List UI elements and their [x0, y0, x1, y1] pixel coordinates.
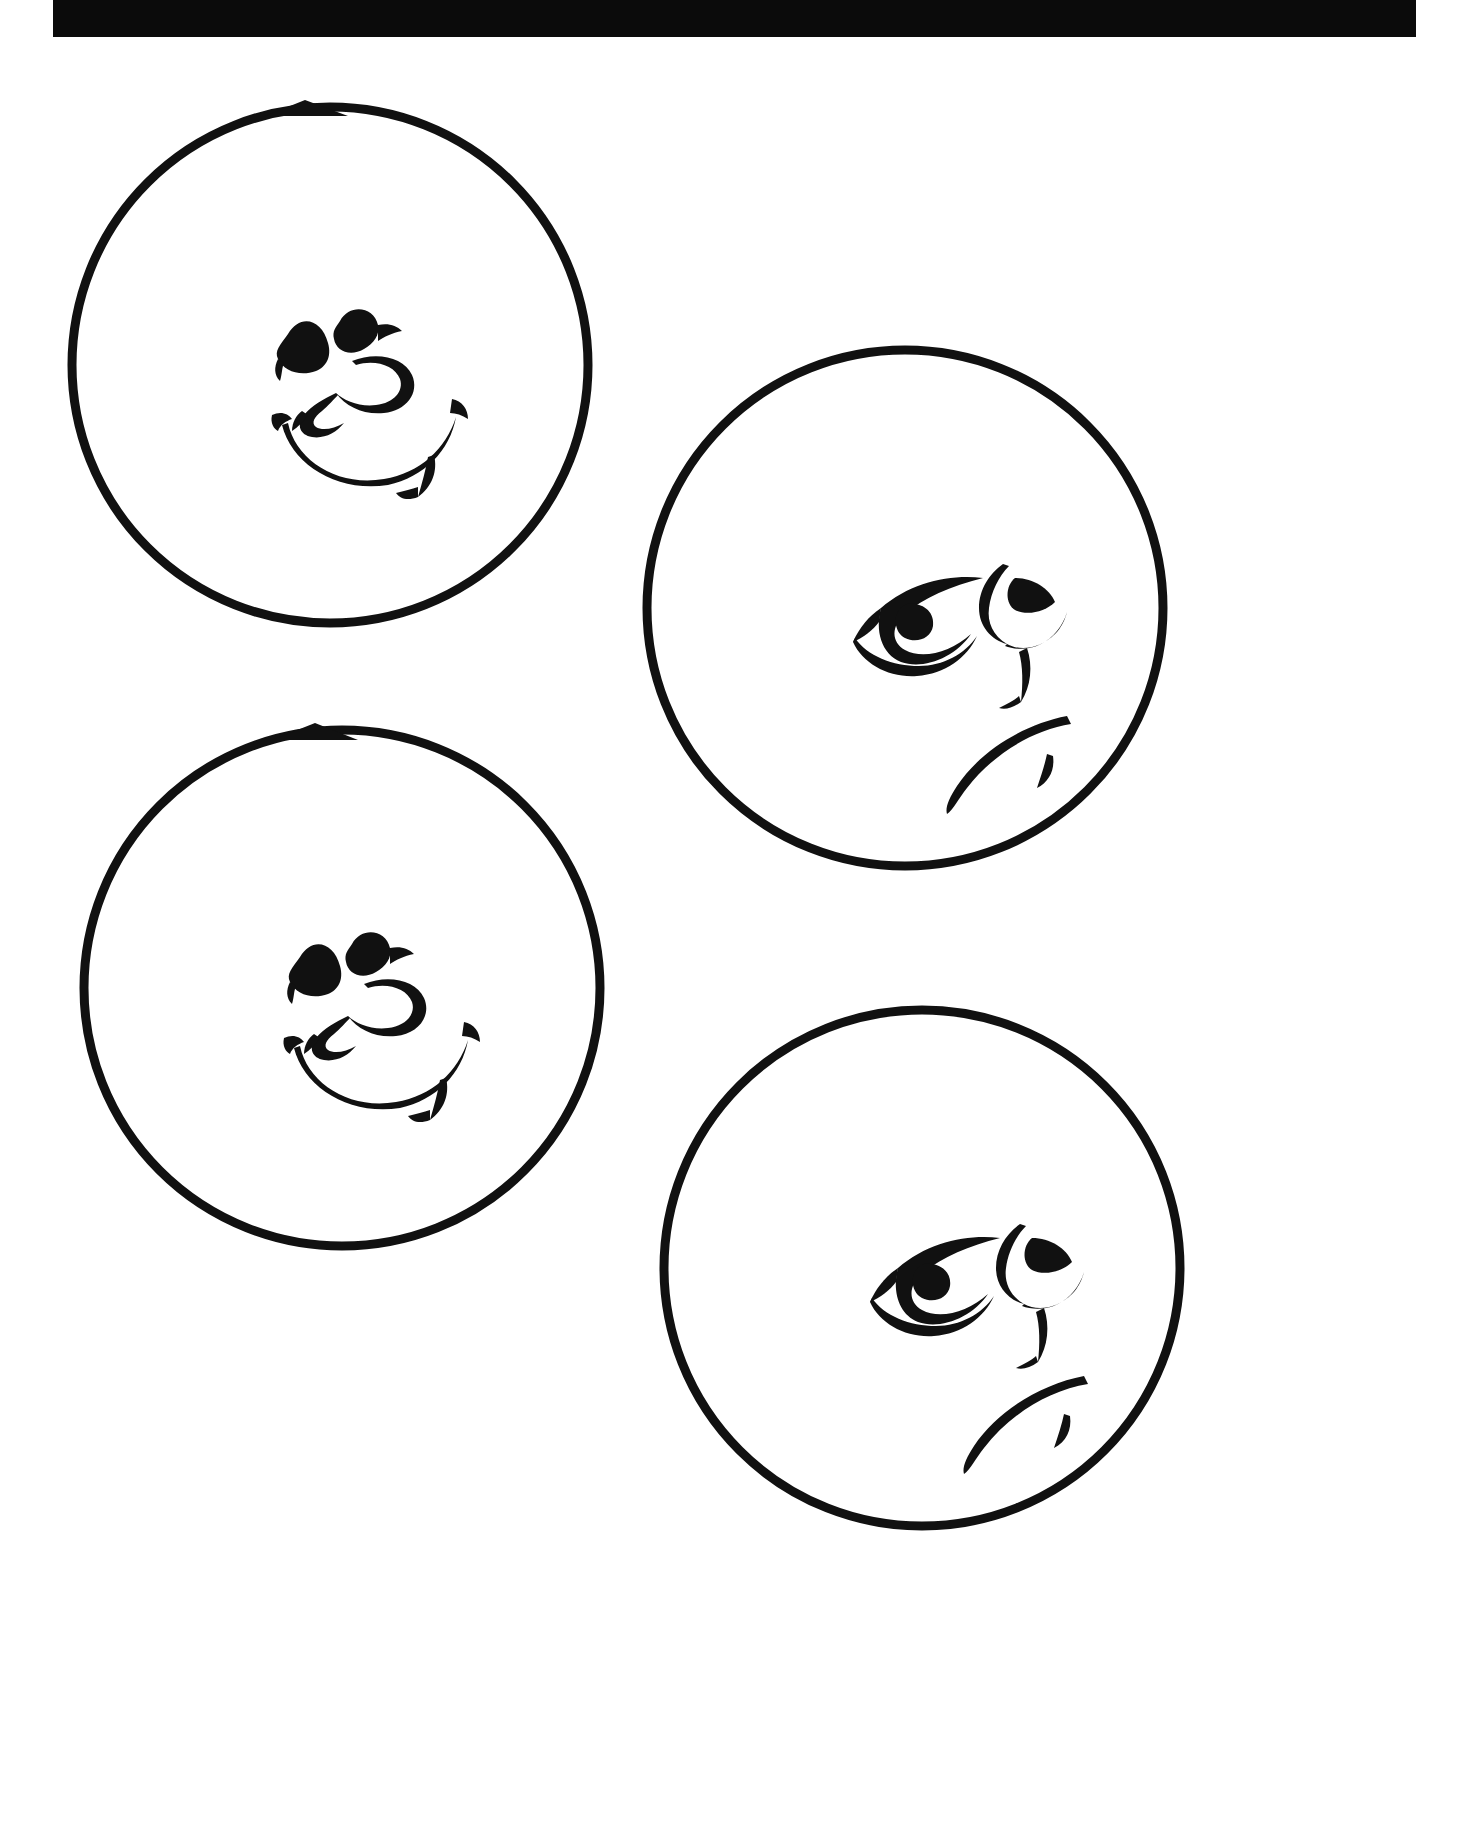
left-eye-outer-corner-icon	[853, 608, 881, 642]
right-eye-cheek-line-icon	[1036, 1308, 1047, 1362]
figure-disc-2	[647, 350, 1163, 866]
right-eye-cheek-line-icon	[1019, 648, 1030, 702]
nose-icon	[336, 356, 414, 413]
left-eye-icon	[277, 321, 330, 373]
right-eye-cheek-tip-icon	[999, 696, 1021, 709]
right-eye-icon	[979, 564, 1009, 644]
right-pupil-icon	[1025, 1238, 1073, 1273]
frowning-face-2	[853, 564, 1071, 814]
chin-tick-icon	[1037, 754, 1053, 788]
right-eye-cheek-tip-icon	[1016, 1356, 1038, 1369]
left-eye-tail-icon	[287, 982, 296, 1004]
left-eye-tail-icon	[275, 359, 284, 381]
figure-disc-3	[84, 723, 600, 1246]
right-eye-tail-icon	[378, 324, 402, 341]
document-page: Smiling and Frowning Face Disc Template …	[0, 0, 1469, 1839]
smile-arrow-tip-icon	[462, 1022, 480, 1042]
right-lower-lid-icon	[1022, 1272, 1084, 1309]
right-cheek-tick-tail-icon	[396, 487, 418, 499]
right-eye-tail-icon	[390, 947, 414, 964]
smiling-face-3	[283, 932, 480, 1122]
smile-arrow-tip-icon	[450, 399, 468, 419]
disc-outline	[72, 107, 588, 623]
disc-outline	[84, 730, 600, 1246]
right-eye-icon	[996, 1224, 1026, 1304]
frowning-face-4	[870, 1224, 1088, 1474]
left-eye-icon	[289, 944, 342, 996]
right-eye-icon	[333, 309, 378, 352]
right-eye-icon	[345, 932, 390, 975]
left-pupil-icon	[896, 604, 934, 641]
line-art-canvas	[0, 0, 1469, 1839]
right-cheek-tick-tail-icon	[408, 1110, 430, 1122]
figure-disc-4	[664, 1010, 1180, 1526]
right-pupil-icon	[1008, 578, 1056, 613]
left-pupil-icon	[913, 1264, 951, 1301]
right-lower-lid-icon	[1005, 612, 1067, 649]
smiling-face-1	[271, 309, 468, 499]
figure-disc-1	[72, 100, 588, 623]
left-eye-outer-corner-icon	[870, 1268, 898, 1302]
chin-tick-icon	[1054, 1414, 1070, 1448]
nose-icon	[348, 979, 426, 1036]
